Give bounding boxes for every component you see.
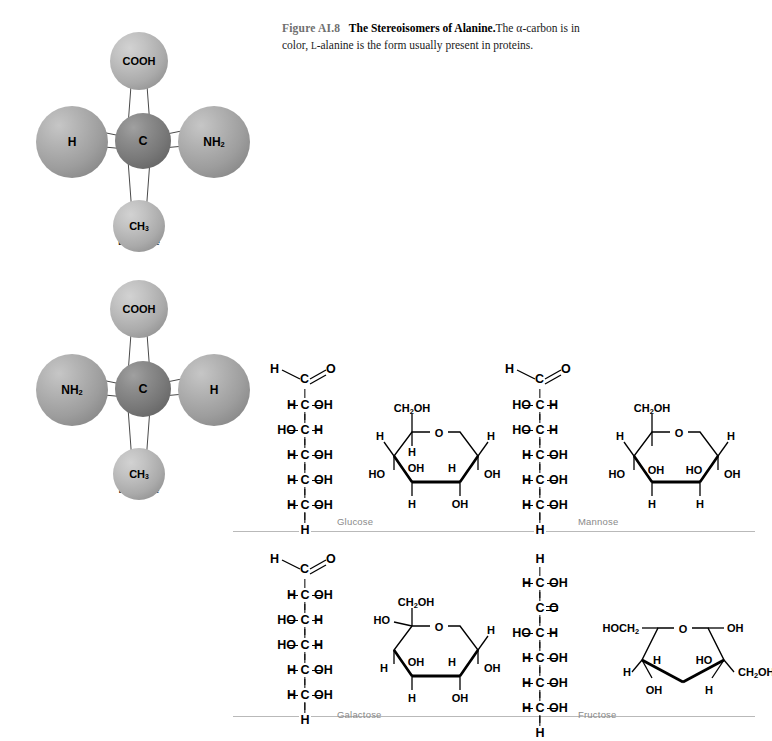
fischer-atom: H — [270, 552, 279, 566]
svg-text:OH: OH — [646, 684, 663, 696]
ring-oxygen: O — [435, 427, 444, 439]
fischer-atom: O — [561, 362, 571, 376]
ring-oxygen: O — [679, 623, 688, 635]
atom-cooh-label: COOH — [123, 55, 156, 67]
atom-cooh-label: COOH — [123, 303, 156, 315]
fischer-bottom: H — [262, 707, 348, 733]
fructose-label: Fructose — [578, 709, 617, 720]
fischer-carbon: C — [534, 626, 545, 640]
figure-title: The Stereoisomers of Alanine. — [349, 22, 496, 34]
atom-ch3: CH3 — [113, 448, 165, 500]
fischer-carbon: C — [299, 638, 310, 652]
fischer-carbon: C — [299, 688, 310, 702]
atom-cooh: COOH — [110, 32, 168, 90]
svg-text:OH: OH — [727, 622, 744, 634]
atom-right-nh2: NH2 — [178, 106, 250, 178]
atom-right-label: H — [210, 383, 219, 397]
glucose-ring-svg: O CH2OH H H H HO OH OH H H OH — [372, 404, 500, 512]
fischer-carbon: C — [534, 601, 545, 615]
atom-alpha-carbon: C — [115, 113, 171, 169]
glucose-haworth-projection: O CH2OH H H H HO OH OH H H OH — [372, 404, 500, 512]
fischer-carbon: C — [534, 423, 545, 437]
aldehyde-group: HCO — [262, 362, 348, 392]
c1-label: HOCH2 — [602, 622, 639, 636]
svg-text:H: H — [727, 430, 735, 442]
mannose-fischer-projection: HCOHOCHHOCHHCOHHCOHHCOHH — [497, 362, 583, 543]
svg-text:HO: HO — [369, 468, 386, 480]
fischer-carbon: C — [535, 372, 544, 386]
c6-label: CH2OH — [398, 596, 435, 610]
galactose-label: Galactose — [337, 709, 382, 720]
caption-body-3: -alanine is the form usually present in … — [317, 39, 534, 51]
atom-center-label: C — [138, 382, 147, 396]
svg-text:H: H — [705, 684, 713, 696]
fischer-carbon: C — [300, 562, 309, 576]
fischer-bottom: H — [262, 517, 348, 543]
fischer-atom: H — [299, 713, 310, 727]
fischer-substituent-right: O — [549, 601, 559, 615]
svg-text:HO: HO — [696, 654, 713, 666]
fructose-ring-svg: O HOCH2 OH H CH2OH H HO OH H — [612, 598, 752, 706]
fischer-carbon: C — [534, 701, 545, 715]
fischer-bottom: H — [497, 720, 583, 741]
fischer-carbon: C — [534, 676, 545, 690]
fischer-atom: H — [534, 726, 545, 740]
svg-text:H: H — [448, 656, 456, 668]
fischer-atom: H — [534, 523, 545, 537]
atom-bottom-label: CH3 — [129, 468, 149, 480]
svg-text:OH: OH — [408, 462, 425, 474]
mannose-haworth-projection: O CH2OH H H HO OH OH HO H H — [612, 404, 740, 512]
fischer-carbon: C — [300, 372, 309, 386]
atom-left-label: H — [68, 135, 77, 149]
fischer-carbon: C — [534, 576, 545, 590]
atom-cooh: COOH — [110, 280, 168, 338]
figure-caption: Figure AI.8 The Stereoisomers of Alanine… — [282, 20, 602, 53]
svg-text:OH: OH — [724, 468, 741, 480]
c6-label: CH2OH — [634, 402, 671, 416]
ring-oxygen: O — [675, 427, 684, 439]
fischer-carbon: C — [299, 613, 310, 627]
svg-text:H: H — [616, 430, 624, 442]
fischer-atom: H — [270, 362, 279, 376]
fischer-carbon: C — [299, 588, 310, 602]
fischer-atom: O — [326, 362, 336, 376]
atom-left-h: H — [36, 106, 108, 178]
svg-text:H: H — [623, 666, 631, 678]
fructose-haworth-projection: O HOCH2 OH H CH2OH H HO OH H — [612, 598, 752, 706]
fischer-carbon: C — [299, 663, 310, 677]
mannose-label: Mannose — [578, 516, 618, 527]
galactose-haworth-projection: O CH2OH HO H H OH OH H H OH — [372, 598, 500, 706]
fischer-carbon: C — [534, 473, 545, 487]
svg-text:H: H — [408, 498, 416, 510]
glucose-label: Glucose — [337, 516, 373, 527]
fischer-atom: H — [505, 362, 514, 376]
atom-left-label: NH2 — [61, 383, 82, 397]
atom-bottom-label: CH3 — [129, 220, 149, 232]
svg-text:H: H — [448, 462, 456, 474]
fischer-carbon: C — [299, 473, 310, 487]
fischer-carbon: C — [299, 423, 310, 437]
aldehyde-group: HCO — [497, 362, 583, 392]
atom-right-h: H — [178, 354, 250, 426]
svg-text:CH2OH: CH2OH — [738, 666, 772, 680]
svg-text:H: H — [408, 692, 416, 704]
glucose-fischer-projection: HCOHCOHHOCHHCOHHCOHHCOHH — [262, 362, 348, 543]
svg-text:H: H — [487, 624, 495, 636]
svg-text:OH: OH — [452, 692, 469, 704]
c6-label: CH2OH — [394, 402, 431, 416]
fischer-carbon: C — [534, 448, 545, 462]
aldehyde-group: HCO — [262, 552, 348, 582]
svg-text:H: H — [408, 446, 416, 458]
l-alanine-model: COOH NH2 C H CH3 l-alanine — [14, 262, 264, 512]
fischer-carbon: C — [534, 498, 545, 512]
svg-text:HO: HO — [609, 468, 626, 480]
atom-right-label: NH2 — [203, 135, 224, 149]
atom-center-label: C — [138, 134, 147, 148]
fischer-atom: H — [534, 552, 545, 566]
svg-text:OH: OH — [452, 498, 469, 510]
caption-body-1: The — [496, 22, 517, 34]
fischer-carbon: C — [299, 498, 310, 512]
fischer-carbon: C — [299, 398, 310, 412]
galactose-fischer-projection: HCOHCOHHOCHHOCHHCOHHCOHH — [262, 552, 348, 733]
ring-oxygen: O — [435, 621, 444, 633]
